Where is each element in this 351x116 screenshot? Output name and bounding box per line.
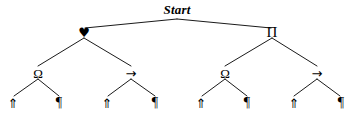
edge-root-pi [177,19,271,28]
edge-heart-omega1 [38,38,84,66]
edge-arrow1-leaf4 [131,79,155,96]
edges-group [14,19,340,96]
edge-root-heart [85,19,177,28]
edge-omega2-leaf6 [225,79,247,96]
tree-diagram: Start ♥ Π Ω → Ω → ⇑ ¶ ⇑ ¶ ⇑ ¶ ⇑ ¶ [0,0,351,116]
edge-omega1-leaf2 [38,79,59,96]
edge-omega2-leaf5 [202,79,225,96]
edge-pi-omega2 [225,38,272,66]
edge-heart-arrow1 [84,38,131,66]
edge-arrow2-leaf8 [317,79,340,96]
edge-arrow1-leaf3 [108,79,131,96]
tree-edges-layer [0,0,351,116]
edge-arrow2-leaf7 [294,79,317,96]
edge-omega1-leaf1 [14,79,38,96]
edge-pi-arrow2 [272,38,317,66]
